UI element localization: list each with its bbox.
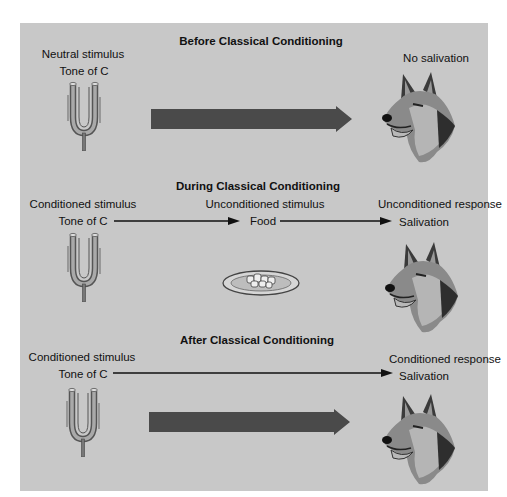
tuning-fork-icon (67, 230, 101, 302)
conditioned-stimulus-label: Conditioned stimulus (30, 198, 137, 210)
tone-of-c-label: Tone of C (58, 215, 107, 227)
salivation-label: Salivation (399, 216, 449, 228)
section-during-title: During Classical Conditioning (176, 180, 340, 192)
conditioned-stimulus-label: Conditioned stimulus (29, 351, 136, 363)
thin-arrow-icon (280, 216, 392, 226)
section-before-title: Before Classical Conditioning (179, 35, 343, 47)
dog-head-icon (382, 240, 462, 335)
food-plate-icon (220, 268, 302, 298)
conditioned-response-label: Conditioned response (389, 353, 501, 365)
dog-head-icon (379, 70, 459, 165)
tone-of-c-label: Tone of C (59, 65, 108, 77)
section-after-title: After Classical Conditioning (180, 334, 334, 346)
unconditioned-response-label: Unconditioned response (378, 198, 502, 210)
tone-of-c-label: Tone of C (58, 368, 107, 380)
salivation-label: Salivation (399, 370, 449, 382)
big-arrow-icon (150, 106, 353, 132)
neutral-stimulus-label: Neutral stimulus (42, 48, 124, 60)
dog-head-icon (379, 392, 459, 487)
unconditioned-stimulus-label: Unconditioned stimulus (206, 198, 325, 210)
tuning-fork-icon (66, 385, 100, 457)
big-arrow-icon (148, 409, 351, 435)
food-label: Food (250, 215, 276, 227)
thin-arrow-icon (113, 368, 393, 378)
no-salivation-label: No salivation (403, 52, 469, 64)
thin-arrow-icon (114, 216, 240, 226)
tuning-fork-icon (67, 79, 101, 151)
